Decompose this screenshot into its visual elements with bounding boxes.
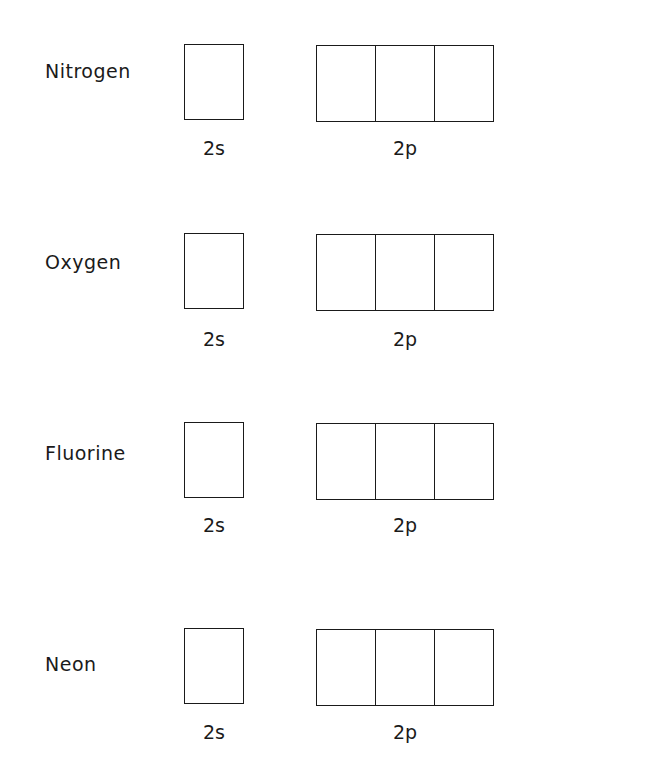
orbital-2p-cell (375, 46, 434, 121)
element-label: Fluorine (45, 442, 126, 464)
orbital-2p-box (316, 45, 494, 122)
orbital-2p-cell (434, 46, 493, 121)
orbital-2p-label: 2p (393, 328, 417, 350)
orbital-2s-label: 2s (203, 514, 225, 536)
orbital-2s-label: 2s (203, 328, 225, 350)
element-label: Neon (45, 653, 97, 675)
orbital-2p-cell (375, 235, 434, 310)
orbital-2s-box (184, 628, 244, 704)
orbital-2p-cell (375, 424, 434, 499)
orbital-2p-cell (317, 46, 375, 121)
orbital-2p-label: 2p (393, 721, 417, 743)
orbital-2s-box (184, 233, 244, 309)
orbital-2p-label: 2p (393, 137, 417, 159)
orbital-2p-cell (434, 424, 493, 499)
orbital-2s-box (184, 44, 244, 120)
orbital-2p-cell (434, 235, 493, 310)
orbital-2p-cell (317, 235, 375, 310)
orbital-2s-box (184, 422, 244, 498)
orbital-2p-cell (375, 630, 434, 705)
orbital-2p-cell (317, 424, 375, 499)
element-label: Oxygen (45, 251, 121, 273)
orbital-2p-box (316, 234, 494, 311)
orbital-2p-label: 2p (393, 514, 417, 536)
orbital-2s-label: 2s (203, 137, 225, 159)
orbital-2s-label: 2s (203, 721, 225, 743)
orbital-2p-cell (317, 630, 375, 705)
element-label: Nitrogen (45, 60, 131, 82)
orbital-2p-box (316, 629, 494, 706)
orbital-2p-cell (434, 630, 493, 705)
orbital-2p-box (316, 423, 494, 500)
